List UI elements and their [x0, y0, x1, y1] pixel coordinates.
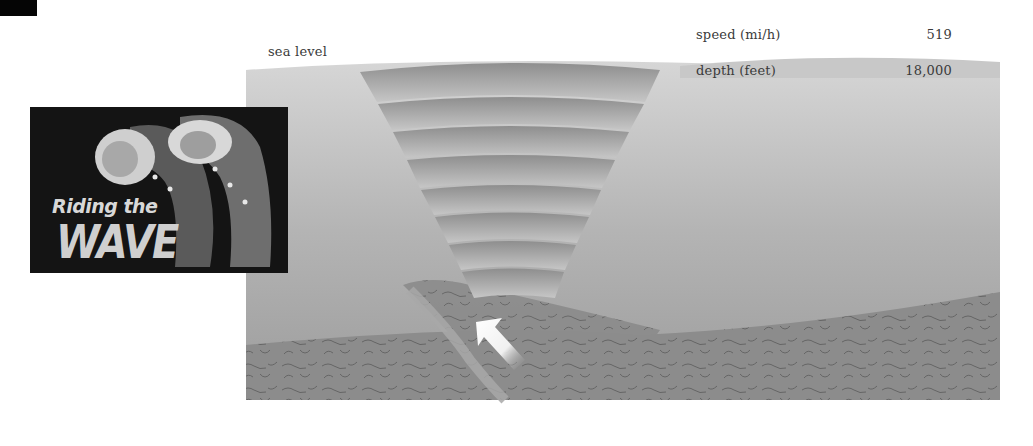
- logo-title-line2: WAVE: [56, 215, 177, 268]
- speed-value: 519: [917, 27, 952, 42]
- logo-title-line1: Riding the: [52, 195, 158, 217]
- riding-the-wave-logo: Riding the WAVE: [30, 107, 288, 273]
- depth-value: 18,000: [890, 63, 952, 78]
- sea-level-label: sea level: [268, 44, 327, 59]
- speed-label: speed (mi/h): [696, 27, 781, 42]
- depth-label: depth (feet): [696, 63, 776, 78]
